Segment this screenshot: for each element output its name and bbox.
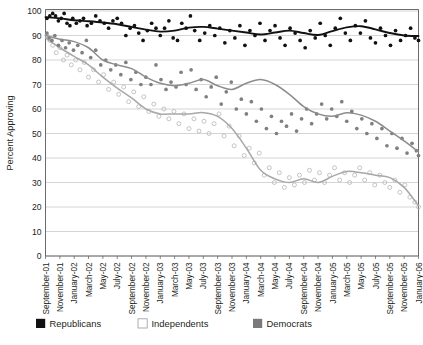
y-tick-label: 60 bbox=[32, 104, 42, 114]
data-point bbox=[260, 107, 264, 111]
data-point bbox=[343, 31, 347, 35]
data-point bbox=[233, 36, 237, 40]
data-point bbox=[365, 132, 369, 136]
plot-frame bbox=[46, 10, 419, 257]
data-point bbox=[122, 85, 126, 89]
x-tick-label: November-03 bbox=[228, 262, 237, 312]
data-point bbox=[275, 132, 279, 136]
data-point bbox=[345, 119, 349, 123]
x-tick-label: March-03 bbox=[171, 262, 180, 297]
data-point bbox=[154, 26, 158, 30]
data-point bbox=[159, 78, 163, 82]
data-point bbox=[50, 39, 54, 43]
data-point bbox=[394, 29, 398, 33]
y-axis-title: Percent Approving bbox=[5, 95, 15, 170]
x-tick-label: September-01 bbox=[42, 262, 51, 314]
data-point bbox=[139, 83, 143, 87]
data-point bbox=[389, 43, 393, 47]
data-point bbox=[141, 39, 145, 43]
x-tick-label: July-05 bbox=[372, 262, 381, 289]
data-point bbox=[292, 183, 296, 187]
data-point bbox=[268, 29, 272, 33]
data-point bbox=[189, 14, 193, 18]
data-point bbox=[295, 129, 299, 133]
data-point bbox=[300, 117, 304, 121]
y-tick-label: 20 bbox=[32, 202, 42, 212]
x-tick-label: September-03 bbox=[214, 262, 223, 314]
x-tick-label: January-02 bbox=[70, 262, 79, 303]
x-tick-label: January-03 bbox=[156, 262, 165, 303]
x-tick-label: January-04 bbox=[242, 262, 251, 303]
data-point bbox=[290, 112, 294, 116]
data-point bbox=[127, 100, 131, 104]
data-point bbox=[137, 31, 141, 35]
x-tick-label: November-02 bbox=[142, 262, 151, 312]
data-point bbox=[288, 26, 292, 30]
x-tick-label: November-04 bbox=[314, 262, 323, 312]
x-tick-label: May-04 bbox=[271, 262, 280, 290]
data-point bbox=[359, 31, 363, 35]
y-tick-label: 30 bbox=[32, 178, 42, 188]
chart-canvas: 0102030405060708090100 September-01Novem… bbox=[0, 0, 423, 345]
data-point bbox=[243, 43, 247, 47]
x-tick-label: March-04 bbox=[257, 262, 266, 297]
data-point bbox=[78, 68, 82, 72]
data-point bbox=[265, 127, 269, 131]
data-point bbox=[388, 185, 392, 189]
x-tick-label: May-02 bbox=[99, 262, 108, 290]
data-point bbox=[308, 29, 312, 33]
x-axis-tick-labels: September-01November-01January-02March-0… bbox=[42, 262, 423, 314]
data-point bbox=[171, 36, 175, 40]
data-point bbox=[267, 166, 271, 170]
data-point bbox=[282, 185, 286, 189]
data-point bbox=[385, 144, 389, 148]
data-point bbox=[405, 151, 409, 155]
data-point bbox=[203, 31, 207, 35]
data-point bbox=[157, 114, 161, 118]
data-point bbox=[209, 85, 213, 89]
data-point bbox=[189, 68, 193, 72]
data-point bbox=[223, 41, 227, 45]
data-point bbox=[109, 68, 113, 72]
data-point bbox=[325, 117, 329, 121]
data-point bbox=[124, 61, 128, 65]
data-point bbox=[320, 102, 324, 106]
data-point bbox=[278, 36, 282, 40]
data-point bbox=[263, 39, 267, 43]
data-point bbox=[229, 80, 233, 84]
data-point bbox=[99, 63, 103, 67]
y-axis-tick-labels: 0102030405060708090100 bbox=[27, 6, 42, 261]
data-point bbox=[80, 51, 84, 55]
data-point bbox=[257, 151, 261, 155]
data-point bbox=[353, 173, 357, 177]
data-point bbox=[384, 34, 388, 38]
data-point bbox=[132, 90, 136, 94]
data-point bbox=[250, 100, 254, 104]
scatter-points-democrats bbox=[45, 31, 420, 157]
legend-swatch-independents bbox=[138, 319, 147, 328]
data-point bbox=[349, 39, 353, 43]
y-tick-label: 40 bbox=[32, 153, 42, 163]
data-point bbox=[283, 43, 287, 47]
data-point bbox=[338, 178, 342, 182]
data-point bbox=[45, 31, 49, 35]
data-point bbox=[198, 39, 202, 43]
data-point bbox=[158, 34, 162, 38]
data-point bbox=[154, 63, 158, 67]
data-point bbox=[97, 80, 101, 84]
chart-legend: RepublicansIndependentsDemocrats bbox=[36, 318, 312, 329]
y-tick-label: 80 bbox=[32, 55, 42, 65]
data-point bbox=[318, 21, 322, 25]
data-point bbox=[89, 56, 93, 60]
x-tick-label: November-01 bbox=[56, 262, 65, 312]
data-point bbox=[212, 122, 216, 126]
data-point bbox=[238, 24, 242, 28]
data-point bbox=[355, 127, 359, 131]
data-point bbox=[297, 173, 301, 177]
y-tick-label: 90 bbox=[32, 31, 42, 41]
data-point bbox=[57, 43, 61, 47]
data-point bbox=[87, 75, 91, 79]
data-point bbox=[74, 21, 78, 25]
data-point bbox=[270, 115, 274, 119]
data-point bbox=[204, 95, 208, 99]
